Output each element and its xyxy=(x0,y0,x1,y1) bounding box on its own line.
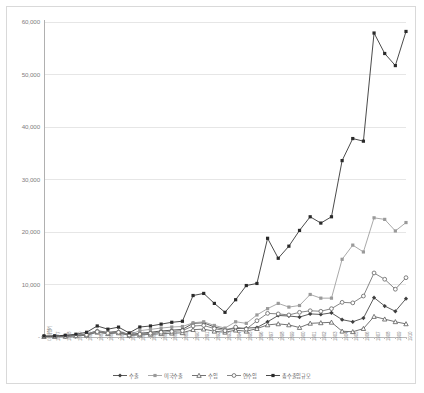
data-point-marker xyxy=(287,245,290,248)
y-axis-label: 20,000 xyxy=(2,228,40,235)
data-point-marker xyxy=(244,327,248,331)
legend-swatch xyxy=(266,372,280,379)
data-point-marker xyxy=(287,323,291,327)
data-point-marker xyxy=(255,313,258,316)
data-point-marker xyxy=(232,373,236,377)
y-axis-label: 50,000 xyxy=(2,71,40,78)
data-point-marker xyxy=(297,325,301,329)
x-axis-label: 1888 xyxy=(173,332,178,341)
data-point-marker xyxy=(340,318,344,322)
data-point-marker xyxy=(287,305,290,308)
series-line xyxy=(44,218,406,337)
data-point-marker xyxy=(202,292,205,295)
data-point-marker xyxy=(160,323,163,326)
x-axis-label: 1908 xyxy=(386,332,391,341)
data-point-marker xyxy=(319,321,323,325)
x-axis-label: 1881 xyxy=(99,332,104,341)
x-axis-label: 1909 xyxy=(397,332,402,341)
x-axis-label: 1886 xyxy=(152,332,157,341)
legend-item-수출[interactable]: 수출 xyxy=(113,372,139,379)
data-point-marker xyxy=(265,323,269,327)
data-point-marker xyxy=(276,322,280,326)
data-point-marker xyxy=(149,324,152,327)
data-point-marker xyxy=(309,215,312,218)
legend-label: 연수입 xyxy=(243,372,257,379)
y-axis-label: 60,000 xyxy=(2,18,40,25)
data-point-marker xyxy=(361,316,365,320)
data-point-marker xyxy=(341,258,344,261)
chart-plot-area xyxy=(0,0,424,393)
data-point-marker xyxy=(276,312,280,316)
y-axis-label: 30,000 xyxy=(2,176,40,183)
legend-swatch xyxy=(148,372,162,379)
data-point-marker xyxy=(245,322,248,325)
data-point-marker xyxy=(170,321,173,324)
data-point-marker xyxy=(245,284,248,287)
data-point-marker xyxy=(351,244,354,247)
x-axis-label: 1906 xyxy=(365,332,370,341)
x-axis-label: 1880 xyxy=(88,332,93,341)
data-point-marker xyxy=(394,229,397,232)
data-point-marker xyxy=(372,216,375,219)
x-axis-label: 1895 xyxy=(248,332,253,341)
legend-item-총수출입규모[interactable]: 총수출입규모 xyxy=(266,372,311,379)
data-point-marker xyxy=(181,320,184,323)
chart-container: 수출미국수출수입연수입총수출입규모 60,00050,00040,00030,0… xyxy=(0,0,424,393)
data-point-marker xyxy=(329,311,333,315)
data-point-marker xyxy=(277,257,280,260)
data-point-marker xyxy=(266,307,269,310)
legend-swatch xyxy=(227,372,241,379)
data-point-marker xyxy=(308,309,312,313)
x-axis-label: 1904 xyxy=(344,332,349,341)
data-point-marker xyxy=(287,313,291,317)
legend-item-수입[interactable]: 수입 xyxy=(192,372,218,379)
legend-item-연수입[interactable]: 연수입 xyxy=(227,372,257,379)
data-point-marker xyxy=(393,287,397,291)
series-연수입 xyxy=(42,271,408,338)
data-point-marker xyxy=(266,311,270,315)
data-point-marker xyxy=(351,137,354,140)
x-axis-label: 1905 xyxy=(354,332,359,341)
data-point-marker xyxy=(153,373,156,376)
legend-label: 수입 xyxy=(208,372,218,379)
legend-item-미국수출[interactable]: 미국수출 xyxy=(148,372,183,379)
data-point-marker xyxy=(277,302,280,305)
data-point-marker xyxy=(319,309,323,313)
x-axis-label: 1898 xyxy=(280,332,285,341)
data-point-marker xyxy=(266,237,269,240)
data-point-marker xyxy=(393,320,397,324)
data-point-marker xyxy=(138,325,141,328)
data-point-marker xyxy=(117,326,120,329)
data-point-marker xyxy=(197,373,201,377)
x-axis-label: 1897 xyxy=(269,332,274,341)
data-point-marker xyxy=(212,327,216,331)
series-line xyxy=(44,31,406,336)
x-axis-label: 1889 xyxy=(184,332,189,341)
data-point-marker xyxy=(383,52,386,55)
data-point-marker xyxy=(404,322,408,326)
data-point-marker xyxy=(362,294,366,298)
data-point-marker xyxy=(330,297,333,300)
x-axis-label: 1884 xyxy=(131,332,136,341)
data-point-marker xyxy=(255,282,258,285)
data-point-marker xyxy=(362,250,365,253)
data-point-marker xyxy=(181,325,184,328)
x-axis-label: 1894 xyxy=(237,332,242,341)
data-point-marker xyxy=(330,215,333,218)
data-point-marker xyxy=(234,325,238,329)
x-axis-label: 1891 xyxy=(205,332,210,341)
x-axis-label: 1878 xyxy=(67,332,72,341)
x-axis-label: 1903 xyxy=(333,332,338,341)
data-point-marker xyxy=(170,325,173,328)
x-axis-label: 1910 xyxy=(408,332,413,341)
data-point-marker xyxy=(213,302,216,305)
data-point-marker xyxy=(160,326,163,329)
chart-canvas xyxy=(0,0,424,393)
chart-legend: 수출미국수출수입연수입총수출입규모 xyxy=(0,367,424,383)
data-point-marker xyxy=(404,221,407,224)
data-point-marker xyxy=(319,221,322,224)
legend-swatch xyxy=(192,372,206,379)
x-axis-label: 1896 xyxy=(259,332,264,341)
x-axis-label: 미개항기 xyxy=(46,326,52,341)
data-point-marker xyxy=(340,300,344,304)
